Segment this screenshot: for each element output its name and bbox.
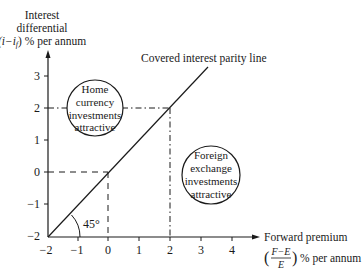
x-tick-label: 4 [229,243,235,257]
x-tick-label: −1 [71,243,84,257]
x-axis-paren-close: ) [292,249,297,267]
home-region-text-4: attractive [75,121,116,133]
y-tick-label: 2 [34,101,40,115]
angle-arc-icon [72,215,81,237]
x-tick-label: 1 [136,243,142,257]
foreign-region-text-4: attractive [191,188,232,200]
y-tick-label: 0 [34,165,40,179]
x-tick-label: −2 [40,243,53,257]
y-axis-title-line2: differential [17,22,68,34]
home-region-text-3: investments [69,109,122,121]
x-axis-title-line1: Forward premium [264,231,347,244]
y-tick-label: −2 [27,229,40,243]
foreign-region-text-1: Foreign [194,149,229,161]
y-tick-label: −1 [27,197,40,211]
x-axis-paren-open: ( [264,249,269,267]
y-axis-title-var: (i−i [0,35,16,48]
x-tick-label: 0 [105,243,111,257]
diagram-canvas: 3 2 1 0 −1 −2 −2 −1 0 1 2 3 4 45° Home c… [0,0,363,277]
cip-diagram: 3 2 1 0 −1 −2 −2 −1 0 1 2 3 4 45° Home c… [0,0,363,277]
y-axis-title-line3: (i−if) % per annum [0,35,86,49]
parity-line-label: Covered interest parity line [141,52,267,65]
x-tick-label: 2 [167,243,173,257]
x-ticks [78,237,232,241]
y-tick-label: 3 [34,69,40,83]
x-axis-title-unit: % per annum [300,252,361,265]
x-tick-label: 3 [198,243,204,257]
x-axis-frac-num: F−E [271,246,291,257]
x-axis-frac-den: E [277,259,284,270]
y-axis-arrow-icon [46,50,51,58]
home-region-text-2: currency [76,96,115,108]
y-axis-title-unit: ) % per annum [18,35,86,48]
x-axis-arrow-icon [252,235,260,240]
home-region-text-1: Home [82,83,109,95]
foreign-region-text-2: exchange [190,162,232,174]
angle-label: 45° [83,217,100,231]
y-axis-title-line1: Interest [25,9,60,21]
foreign-region-text-3: investments [185,175,238,187]
y-tick-label: 1 [34,133,40,147]
